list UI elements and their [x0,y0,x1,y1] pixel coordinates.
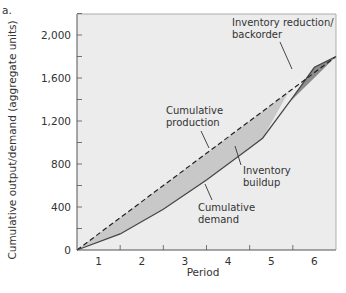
figure-label: a. [2,4,12,16]
x-tick-label: 1 [95,255,102,267]
y-tick-label: 1,200 [41,115,71,127]
svg-text:backorder: backorder [232,29,283,40]
x-tick-label: 2 [138,255,145,267]
x-axis-title: Period [187,266,220,278]
x-tick-label: 5 [268,255,275,267]
y-tick-label: 400 [51,201,71,213]
svg-text:Inventory: Inventory [243,165,291,176]
svg-text:Cumulative: Cumulative [198,202,255,213]
y-tick-label: 1,600 [41,72,71,84]
y-axis-ticks: 04008001,2001,6002,000 [41,14,82,257]
svg-text:buildup: buildup [243,177,280,188]
svg-text:production: production [166,117,220,128]
chart: a. 04008001,2001,6002,000 123456 Period … [0,0,346,293]
y-axis-title: Cumulative output/demand (aggregate unit… [6,20,18,259]
x-tick-label: 6 [311,255,318,267]
svg-text:demand: demand [198,214,239,225]
y-tick-label: 800 [51,158,71,170]
y-tick-label: 0 [64,244,71,256]
x-tick-label: 4 [225,255,232,267]
y-tick-label: 2,000 [41,29,71,41]
svg-text:Cumulative: Cumulative [166,105,223,116]
svg-text:Inventory reduction/: Inventory reduction/ [232,17,334,28]
